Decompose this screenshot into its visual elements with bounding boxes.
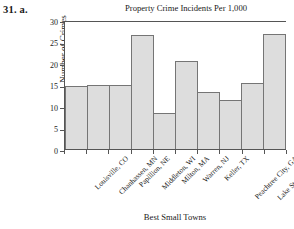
y-tick-label-30: 30 <box>50 18 58 28</box>
x-axis-tick-labels: Louisville, COChanhassen, MNPapillion, N… <box>64 150 286 210</box>
bar-6 <box>197 92 220 149</box>
y-tick-20: 20 <box>60 65 65 66</box>
x-tick-10 <box>286 150 287 154</box>
y-tick-30: 30 <box>60 22 65 23</box>
chart-title: Property Crime Incidents Per 1,000 <box>86 3 286 13</box>
y-tick-5: 5 <box>60 130 65 131</box>
bar-4 <box>153 113 176 149</box>
bar-2 <box>109 85 132 150</box>
y-tick-10: 10 <box>60 108 65 109</box>
y-tick-label-25: 25 <box>50 39 58 49</box>
problem-number-label: 31. a. <box>3 4 28 15</box>
bar-7 <box>219 100 242 149</box>
bar-8 <box>241 83 264 149</box>
y-tick-label-15: 15 <box>50 82 58 92</box>
bar-5 <box>175 61 198 149</box>
y-tick-label-10: 10 <box>50 104 58 114</box>
bar-series <box>65 22 286 149</box>
bar-chart-figure: 31. a. Property Crime Incidents Per 1,00… <box>0 0 294 229</box>
bar-3 <box>131 35 154 149</box>
y-tick-label-20: 20 <box>50 61 58 71</box>
y-tick-label-5: 5 <box>54 125 58 135</box>
bar-1 <box>87 85 110 150</box>
bar-9 <box>263 34 286 149</box>
x-axis-title: Best Small Towns <box>64 212 286 222</box>
bar-0 <box>65 86 88 149</box>
plot-area: 051015202530 <box>64 21 286 150</box>
y-tick-25: 25 <box>60 44 65 45</box>
y-tick-15: 15 <box>60 87 65 88</box>
y-tick-label-0: 0 <box>54 147 58 157</box>
